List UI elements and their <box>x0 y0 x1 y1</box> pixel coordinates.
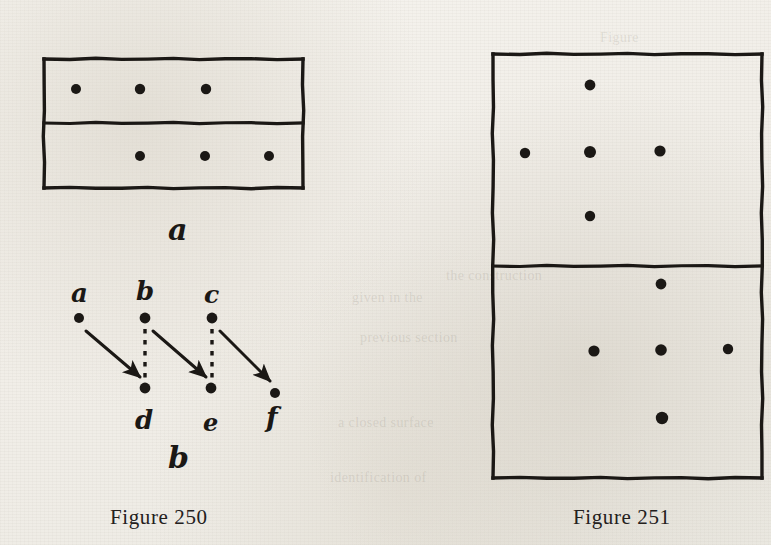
node-label-f: f <box>266 402 278 433</box>
dot-8 <box>723 344 733 354</box>
dot-6 <box>588 345 599 356</box>
figure-251-caption: Figure 251 <box>573 505 671 530</box>
dot-7 <box>655 344 667 356</box>
dot-3 <box>654 145 665 156</box>
node-label-b: b <box>136 276 154 306</box>
figure-251-divided-rectangle <box>492 53 762 478</box>
dot-9 <box>656 412 668 424</box>
fig251-divider <box>493 265 762 266</box>
dot-2 <box>584 146 596 158</box>
dot-0 <box>585 80 596 91</box>
dot-1 <box>520 148 530 158</box>
node-label-e: e <box>203 408 218 437</box>
dot-4 <box>585 211 595 221</box>
figure-stage: a b Figure 250 Figure 251 abcdef <box>0 0 771 545</box>
figure-251-drawing <box>0 0 771 545</box>
node-label-c: c <box>204 280 219 309</box>
dot-5 <box>656 279 667 290</box>
node-label-a: a <box>71 278 88 308</box>
fig251-dots <box>520 80 733 425</box>
node-label-d: d <box>135 405 153 435</box>
